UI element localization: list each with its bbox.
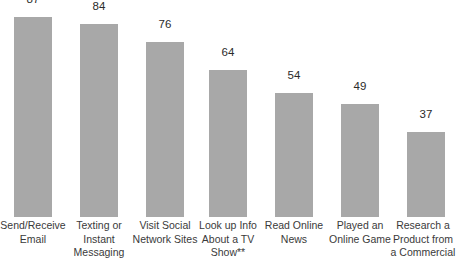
category-label-line: Messaging — [62, 246, 136, 260]
bar-rect — [407, 132, 445, 217]
bar-value-label: 64 — [195, 46, 261, 58]
category-label-line: Show** — [191, 246, 265, 260]
category-label-line: Product from — [386, 233, 456, 247]
bar-rect — [209, 70, 247, 217]
bar-group: 49 — [327, 0, 393, 218]
category-label-line: a Commercial — [386, 246, 456, 260]
bar-rect — [275, 93, 313, 217]
bar-group: 84 — [66, 0, 132, 218]
bar-value-label: 54 — [261, 69, 327, 81]
bar-value-label: 37 — [393, 108, 456, 120]
category-label: Send/ReceiveEmail — [0, 219, 70, 246]
bar-rect — [80, 24, 118, 217]
category-label-line: News — [257, 233, 331, 247]
category-label: Read OnlineNews — [257, 219, 331, 246]
category-label-line: Send/Receive — [0, 219, 70, 233]
category-label-line: About a TV — [191, 233, 265, 247]
bar-rect — [146, 42, 184, 217]
category-label-line: Read Online — [257, 219, 331, 233]
category-label: Texting orInstantMessaging — [62, 219, 136, 260]
bar-group: 64 — [195, 0, 261, 218]
category-axis: Send/ReceiveEmail Texting orInstantMessa… — [0, 219, 456, 274]
bar-value-label: 49 — [327, 80, 393, 92]
bar-value-label: 87 — [0, 0, 66, 5]
category-label-line: Email — [0, 233, 70, 247]
chart-plot-area: 87 84 76 64 54 49 37 — [0, 0, 456, 218]
bar-group: 37 — [393, 0, 456, 218]
category-label-line: Research a — [386, 219, 456, 233]
category-label-line: Look up Info — [191, 219, 265, 233]
bar-group: 54 — [261, 0, 327, 218]
bar-value-label: 76 — [132, 18, 198, 30]
category-label: Research aProduct froma Commercial — [386, 219, 456, 260]
bar-value-label: 84 — [66, 0, 132, 12]
bar-rect — [341, 104, 379, 217]
category-label-line: Texting or — [62, 219, 136, 233]
bar-group: 87 — [0, 0, 66, 218]
category-label-line: Instant — [62, 233, 136, 247]
bar-chart-figure: 87 84 76 64 54 49 37 Send/Receiv — [0, 0, 456, 274]
category-label: Look up InfoAbout a TVShow** — [191, 219, 265, 260]
bar-rect — [14, 17, 52, 217]
bar-group: 76 — [132, 0, 198, 218]
